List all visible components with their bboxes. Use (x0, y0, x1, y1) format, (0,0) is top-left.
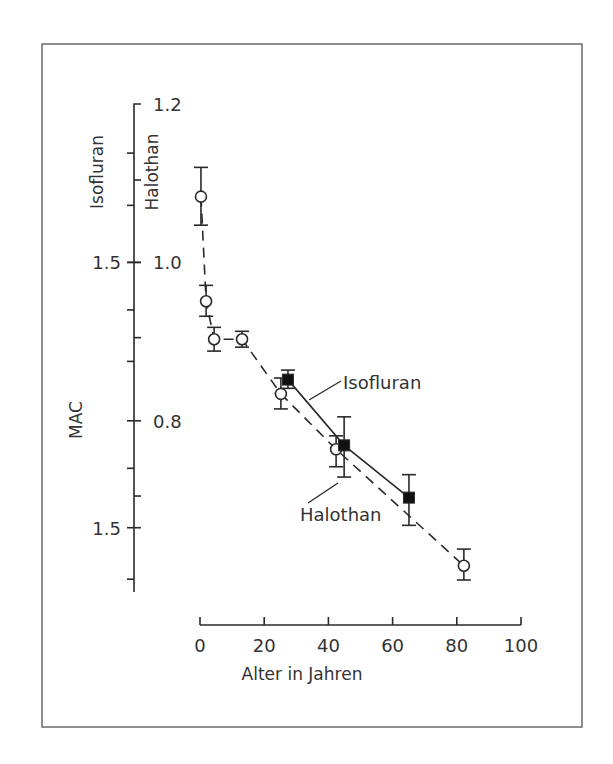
isofluran-leader-line (309, 381, 341, 400)
x-tick-label: 40 (317, 635, 340, 656)
x-tick-label: 20 (253, 635, 276, 656)
mac-age-chart: 0204060801001.21.00.81.51.5 Isofluran Ha… (0, 0, 613, 764)
isofluran-series-label: Isofluran (343, 372, 421, 393)
data-point-isofluran (339, 440, 350, 451)
data-point-halothan (275, 388, 286, 399)
x-tick-label: 80 (445, 635, 468, 656)
x-axis-title: Alter in Jahren (242, 664, 363, 684)
y-tick-label-isofluran: 1.5 (92, 252, 121, 273)
isofluran-line (288, 380, 409, 498)
axis-labels: Isofluran Halothan MAC Alter in Jahren (66, 134, 362, 684)
halothan-leader-line (308, 483, 338, 503)
data-point-halothan (201, 296, 212, 307)
data-point-halothan (209, 334, 220, 345)
y-tick-label-halothan: 1.0 (153, 252, 182, 273)
y-axis-line (134, 104, 141, 592)
y-tick-label-isofluran: 1.5 (92, 518, 121, 539)
x-tick-label: 60 (381, 635, 404, 656)
data-point-halothan (458, 560, 469, 571)
x-tick-label: 100 (504, 635, 538, 656)
series-isofluran (281, 370, 416, 525)
data-point-isofluran (403, 492, 414, 503)
data-point-halothan (237, 334, 248, 345)
y-tick-label-halothan: 0.8 (153, 411, 182, 432)
x-tick-label: 0 (194, 635, 205, 656)
halothan-series-label: Halothan (300, 504, 381, 525)
y-axis-title-halothan: Halothan (142, 134, 162, 211)
y-tick-label-halothan: 1.2 (153, 94, 182, 115)
y-axis-title-isofluran: Isofluran (87, 135, 107, 209)
y-axis-title-mac: MAC (66, 401, 86, 439)
data-point-halothan (195, 191, 206, 202)
data-point-isofluran (282, 374, 293, 385)
